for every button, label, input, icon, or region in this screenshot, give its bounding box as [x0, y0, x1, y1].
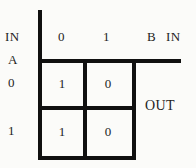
- row-header-0: 0: [8, 76, 15, 89]
- input-a-label: A: [8, 53, 18, 66]
- column-header-0: 0: [58, 30, 65, 43]
- truth-table-grid: 1 0 1 0: [38, 59, 136, 160]
- grid-border-top: [38, 59, 136, 63]
- input-b-in-label: IN: [166, 30, 181, 43]
- table-cell: 1: [52, 77, 72, 90]
- table-cell: 0: [98, 125, 118, 138]
- output-label: OUT: [145, 99, 175, 113]
- input-a-in-label: IN: [5, 30, 20, 43]
- vertical-axis-line: [38, 10, 42, 64]
- grid-divider-horizontal: [38, 106, 136, 110]
- truth-table-figure: IN 0 1 B IN A 0 1 OUT 1 0 1 0: [0, 0, 196, 168]
- grid-border-bottom: [38, 156, 136, 160]
- input-b-label: B: [147, 30, 156, 43]
- row-header-1: 1: [8, 124, 15, 137]
- column-header-1: 1: [103, 30, 110, 43]
- table-cell: 1: [52, 125, 72, 138]
- table-cell: 0: [98, 77, 118, 90]
